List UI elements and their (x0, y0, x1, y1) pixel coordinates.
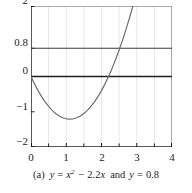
figure-container: 2 0.8 0 −1 −2 0 1 2 3 4 y(a)y=x2−2.2xand… (0, 0, 192, 193)
caption-x2: x (100, 169, 105, 180)
x-axis-label-3: 3 (127, 152, 147, 163)
caption-y1: y (50, 169, 55, 180)
y-axis-label-minus-1: −1 (16, 101, 28, 112)
plot-svg (31, 6, 172, 147)
x-axis-label-0: 0 (21, 152, 41, 163)
figure-caption: y(a)y=x2−2.2xandy=0.8 (0, 168, 192, 182)
x-axis-label-1: 1 (56, 152, 76, 163)
caption-y2: y (129, 169, 134, 180)
caption-minus: − (78, 169, 84, 180)
x-axis-label-2: 2 (92, 152, 112, 163)
caption-value: 0.8 (146, 169, 159, 180)
caption-eq2: = (137, 169, 143, 180)
caption-and: and (110, 169, 125, 180)
x-axis-label-4: 4 (162, 152, 182, 163)
caption-x-exponent: 2 (71, 168, 75, 176)
caption-coefficient: 2.2 (87, 169, 100, 180)
y-axis-label-minus-2: −2 (16, 136, 28, 147)
caption-eq1: = (57, 169, 63, 180)
caption-label: (a) (33, 169, 45, 180)
y-axis-label-0: 0 (23, 65, 29, 76)
plot-area (31, 6, 172, 147)
y-axis-label-0.8: 0.8 (14, 37, 28, 48)
y-axis-label-2: 2 (23, 0, 29, 6)
